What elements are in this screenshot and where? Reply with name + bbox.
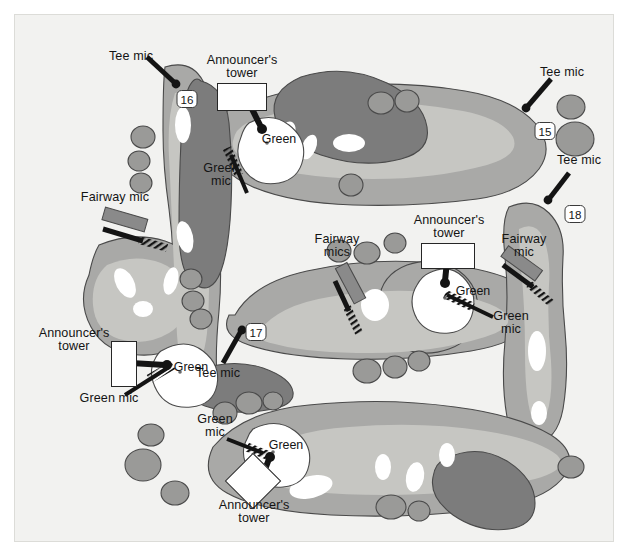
bunker-17-a (361, 289, 389, 321)
mound-q (408, 351, 430, 371)
mound-r (213, 402, 237, 424)
hole-number-15: 15 (535, 122, 556, 140)
mound-f (557, 95, 585, 119)
course-map-svg (15, 15, 614, 542)
mound-l (327, 240, 351, 262)
bunker-16-a (175, 107, 191, 143)
mound-w (161, 481, 189, 505)
mound-d (368, 92, 394, 114)
mound-p (383, 356, 407, 378)
mound-g (556, 122, 594, 156)
mound-u (138, 424, 164, 446)
mound-v (125, 449, 161, 481)
announcers-tower-16[interactable] (217, 83, 267, 111)
mound-o (353, 359, 381, 383)
hole-number-18: 18 (565, 205, 586, 223)
mound-s (236, 392, 262, 414)
green-label-15: Green (269, 438, 303, 452)
bunker-bot-b (375, 454, 391, 480)
mound-h (339, 174, 363, 196)
bunker-16-e (133, 301, 153, 317)
mound-n (384, 233, 406, 253)
hole-number-16: 16 (177, 90, 198, 108)
mound-b (128, 151, 150, 171)
bunker-15-c (333, 134, 365, 152)
mound-c (130, 173, 152, 193)
hole-number-17: 17 (246, 323, 267, 341)
bunker-18-a (528, 331, 546, 371)
announcers-tower-18[interactable] (421, 243, 475, 269)
mound-y (408, 501, 430, 521)
announcers-tower-17[interactable] (111, 341, 137, 387)
mound-i (180, 269, 202, 289)
bunker-bot-d (439, 443, 455, 467)
mound-a (131, 126, 155, 148)
map-panel: 16 15 18 17 Green Green Green Green Tee … (14, 14, 614, 542)
bunker-18-b (531, 401, 547, 425)
mound-j (182, 291, 204, 311)
mound-k (190, 309, 212, 329)
green-label-18: Green (456, 284, 490, 298)
green-label-17: Green (174, 360, 208, 374)
mound-z (558, 456, 584, 478)
green-label-16: Green (262, 132, 296, 146)
mound-t (263, 392, 283, 410)
mound-m (354, 242, 380, 264)
tee-mic-icon-15 (522, 79, 551, 112)
mound-e (395, 90, 419, 112)
figure-root: 16 15 18 17 Green Green Green Green Tee … (0, 0, 628, 557)
tee-mic-icon-18 (544, 173, 569, 204)
mound-x (376, 495, 406, 519)
